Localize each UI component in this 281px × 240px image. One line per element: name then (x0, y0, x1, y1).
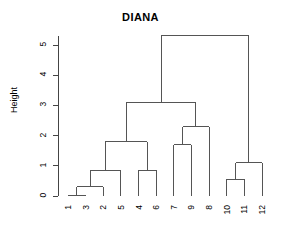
leaf-label: 1 (63, 205, 73, 221)
leaf-label: 12 (257, 205, 267, 221)
y-tick-label: 2 (38, 128, 48, 142)
y-tick-label: 5 (38, 37, 48, 51)
y-axis (53, 36, 58, 196)
leaf-label: 9 (186, 205, 196, 221)
leaf-label: 7 (169, 205, 179, 221)
leaf-label: 2 (98, 205, 108, 221)
y-tick-label: 0 (38, 188, 48, 202)
leaf-label: 10 (222, 205, 232, 221)
leaf-label: 4 (134, 205, 144, 221)
leaf-label: 6 (151, 205, 161, 221)
leaf-label: 11 (239, 205, 249, 221)
leaf-label: 3 (81, 205, 91, 221)
leaf-label: 5 (116, 205, 126, 221)
dendrogram-plot: DIANA Height 012345 132546798101112 (0, 0, 281, 240)
dendrogram-canvas (0, 0, 281, 240)
y-tick-label: 4 (38, 67, 48, 81)
leaf-label: 8 (204, 205, 214, 221)
y-tick-label: 3 (38, 97, 48, 111)
y-tick-label: 1 (38, 158, 48, 172)
dendrogram-tree (68, 36, 262, 196)
